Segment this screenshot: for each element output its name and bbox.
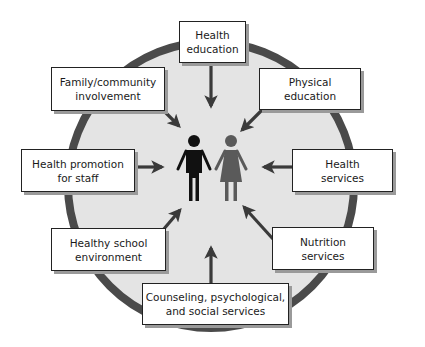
label-healthy-school-environment: Healthy school environment xyxy=(70,236,148,264)
box-health-services: Health services xyxy=(292,149,393,192)
label-health-promotion-staff: Health promotion for staff xyxy=(32,157,124,185)
box-physical-education: Physical education xyxy=(259,68,361,110)
label-nutrition-services: Nutrition services xyxy=(300,235,346,263)
label-health-services: Health services xyxy=(321,157,364,185)
label-family-community-involvement: Family/community involvement xyxy=(60,75,157,103)
label-counseling-services: Counseling, psychological, and social se… xyxy=(146,290,285,318)
box-health-promotion-staff: Health promotion for staff xyxy=(21,149,135,192)
box-counseling-services: Counseling, psychological, and social se… xyxy=(142,283,289,325)
box-nutrition-services: Nutrition services xyxy=(272,227,374,270)
box-healthy-school-environment: Healthy school environment xyxy=(51,228,166,271)
label-physical-education: Physical education xyxy=(284,75,336,103)
box-health-education: Health education xyxy=(179,21,246,63)
label-health-education: Health education xyxy=(186,28,238,56)
box-family-community-involvement: Family/community involvement xyxy=(51,67,165,111)
school-health-diagram: Health education Physical education Heal… xyxy=(0,0,425,347)
